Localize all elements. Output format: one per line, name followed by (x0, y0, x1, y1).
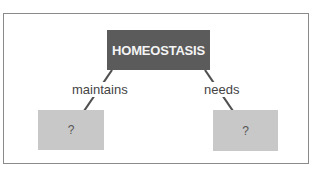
concept-node-homeostasis-label: HOMEOSTASIS (112, 43, 205, 58)
link-label-needs: needs (203, 82, 240, 97)
concept-node-unknown-right-label: ? (242, 124, 249, 138)
concept-node-unknown-right: ? (213, 110, 278, 151)
link-label-maintains: maintains (71, 82, 129, 97)
concept-node-unknown-left-label: ? (68, 123, 75, 137)
concept-node-homeostasis: HOMEOSTASIS (107, 30, 210, 70)
concept-node-unknown-left: ? (38, 110, 104, 150)
